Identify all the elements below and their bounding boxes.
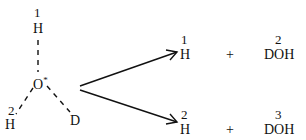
product1-right-number: 2 [275,33,282,47]
product1-left: H [180,48,190,62]
bond-o-h2 [16,88,33,114]
arrow-upper-line [80,52,177,86]
arrow-lower-line [80,90,177,122]
product2-left: H [180,123,190,137]
bond-o-d [47,86,70,112]
h2-number: 2 [8,104,15,118]
product2-right: DOH [264,123,294,137]
product2-plus: + [226,123,234,137]
h1-number: 1 [34,6,41,20]
product2-right-number: 3 [275,108,282,122]
bond-lines [0,0,306,140]
product1-plus: + [226,48,234,62]
product2-left-number: 2 [181,108,188,122]
product1-right: DOH [264,48,294,62]
product1-left-number: 1 [181,33,188,47]
oxygen-atom: O* [33,73,48,92]
h1-atom: H [33,22,43,36]
h2-atom: H [5,118,15,132]
d-atom: D [70,114,80,128]
